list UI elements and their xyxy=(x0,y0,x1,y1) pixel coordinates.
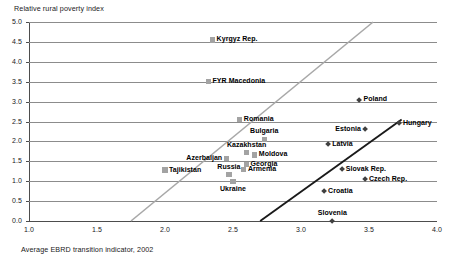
x-axis-tick-label: 3.0 xyxy=(286,226,316,233)
data-point-label: Latvia xyxy=(332,140,353,148)
data-point-label: Romania xyxy=(244,115,274,123)
x-axis-tick-label: 1.5 xyxy=(82,226,112,233)
y-axis-tick-label: 3.0 xyxy=(0,98,22,105)
square-marker-icon xyxy=(244,150,249,155)
y-axis-tick-label: 4.5 xyxy=(0,38,22,45)
x-axis-tick-label: 2.5 xyxy=(218,226,248,233)
data-point-label: Slovak Rep. xyxy=(346,165,386,173)
square-marker-icon xyxy=(162,167,167,172)
data-point-label: Kazakhstan xyxy=(227,141,266,149)
data-point-label: FYR Macedonia xyxy=(213,77,266,85)
data-point-label: Kyrgyz Rep. xyxy=(217,35,258,43)
y-axis-tick-label: 4.0 xyxy=(0,58,22,65)
square-marker-icon xyxy=(210,37,215,42)
square-marker-icon xyxy=(237,117,242,122)
y-axis-tick-label: 2.5 xyxy=(0,118,22,125)
x-axis-tick-label: 4.0 xyxy=(422,226,450,233)
y-axis-tick-label: 5.0 xyxy=(0,18,22,25)
y-axis-tick-label: 1.5 xyxy=(0,157,22,164)
square-marker-icon xyxy=(230,179,235,184)
square-marker-icon xyxy=(206,79,211,84)
y-axis-tick-label: 3.5 xyxy=(0,78,22,85)
square-marker-icon xyxy=(226,172,231,177)
data-point-label: Hungary xyxy=(403,119,432,127)
data-point-label: Czech Rep. xyxy=(369,175,407,183)
y-axis-tick-label: 2.0 xyxy=(0,137,22,144)
x-axis-title: Average EBRD transition indicator, 2002 xyxy=(21,245,153,254)
data-point-label: Russia xyxy=(217,163,240,171)
data-point-label: Poland xyxy=(363,95,387,103)
y-axis-tick-label: 0.0 xyxy=(0,217,22,224)
data-point-label: Tajikistan xyxy=(169,166,201,174)
plot-area: Kyrgyz Rep.FYR MacedoniaRomaniaBulgariaK… xyxy=(29,22,437,221)
data-point-label: Slovenia xyxy=(318,209,347,217)
square-marker-icon xyxy=(241,167,246,172)
x-axis-tick-label: 2.0 xyxy=(150,226,180,233)
data-point-label: Ukraine xyxy=(220,185,246,193)
y-axis-tick-label: 0.5 xyxy=(0,197,22,204)
gridline xyxy=(29,221,437,222)
x-axis-tick-label: 3.5 xyxy=(354,226,384,233)
data-point-label: Estonia xyxy=(335,125,361,133)
data-point-label: Armenia xyxy=(248,165,276,173)
data-point-label: Croatia xyxy=(328,187,352,195)
data-point-label: Azerbaijan xyxy=(186,154,222,162)
data-point-label: Moldova xyxy=(259,150,288,158)
scatter-chart: Relative rural poverty index 0.00.51.01.… xyxy=(0,0,450,259)
data-point-label: Bulgaria xyxy=(250,127,278,135)
y-axis-tick-label: 1.0 xyxy=(0,177,22,184)
x-axis-tick-label: 1.0 xyxy=(14,226,44,233)
square-marker-icon xyxy=(252,152,257,157)
y-axis-title: Relative rural poverty index xyxy=(14,4,104,13)
square-marker-icon xyxy=(224,156,229,161)
